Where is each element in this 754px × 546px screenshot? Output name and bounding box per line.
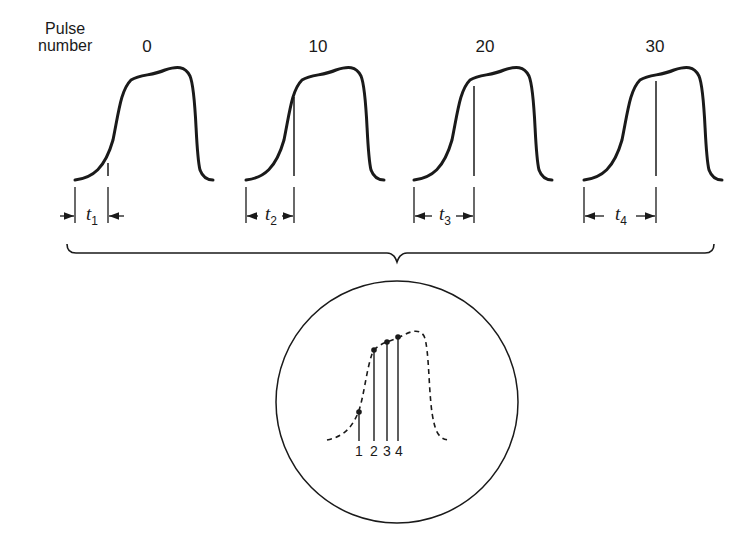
sample-marker-2: 2 <box>370 443 378 459</box>
pulse-0 <box>60 68 213 223</box>
sample-marker-3: 3 <box>383 443 391 459</box>
delay-label-t3: t3 <box>439 203 451 228</box>
pulse-number-label-line2: number <box>38 37 92 54</box>
pulse-10 <box>246 68 384 223</box>
pulse-30 <box>584 68 722 223</box>
pulse-number-20: 20 <box>476 37 495 57</box>
sample-marker-4: 4 <box>395 443 403 459</box>
sampling-diagram <box>0 0 754 546</box>
display-screen <box>276 281 518 523</box>
pulse-number-10: 10 <box>309 37 328 57</box>
sample-markers <box>356 334 401 441</box>
delay-label-t1: t1 <box>86 203 98 228</box>
pulse-number-label-line1: Pulse <box>38 20 92 37</box>
pulse-number-0: 0 <box>142 37 151 57</box>
delay-label-t2: t2 <box>265 203 277 228</box>
pulse-number-label: Pulse number <box>38 20 92 54</box>
pulse-20 <box>414 68 552 223</box>
sample-marker-1: 1 <box>355 443 363 459</box>
delay-label-t4: t4 <box>615 203 627 228</box>
reconstructed-waveform <box>327 331 450 440</box>
pulse-number-30: 30 <box>646 37 665 57</box>
grouping-brace <box>67 244 714 262</box>
